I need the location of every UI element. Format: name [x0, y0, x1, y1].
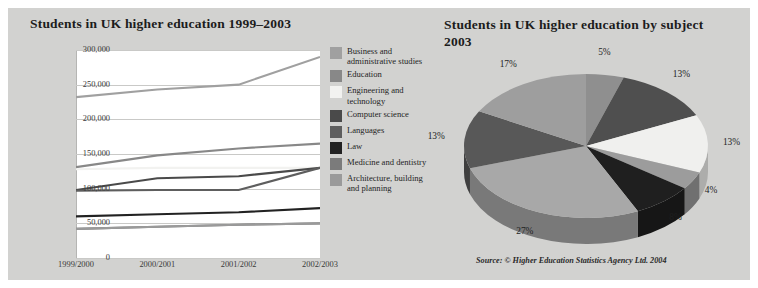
- pie-slice-percentage: 17%: [500, 59, 517, 69]
- line-series: [76, 223, 320, 229]
- line-series: [76, 208, 320, 216]
- gridline: [76, 258, 320, 259]
- pie-slice-percentage: 27%: [516, 226, 533, 236]
- y-axis-tick-label: 300,000: [50, 45, 110, 54]
- x-axis-tick-label: 2002/2003: [283, 260, 357, 269]
- line-series: [76, 168, 320, 169]
- legend-item: Architecture, building and planning: [330, 173, 428, 193]
- x-axis-tick-label: 2000/2001: [120, 260, 194, 269]
- legend-color-swatch: [330, 110, 342, 122]
- legend-color-swatch: [330, 174, 342, 186]
- legend-color-swatch: [330, 142, 342, 154]
- legend-item-label: Languages: [347, 125, 384, 135]
- legend-item-label: Computer science: [347, 109, 409, 119]
- figure-panel: Students in UK higher education 1999–200…: [8, 8, 750, 280]
- pie-slice-percentage: 8%: [669, 212, 682, 222]
- source-attribution: Source: © Higher Education Statistics Ag…: [476, 256, 667, 265]
- legend-color-swatch: [330, 158, 342, 170]
- legend-item: Education: [330, 69, 428, 82]
- legend-item-label: Medicine and dentistry: [347, 157, 426, 167]
- x-axis-tick-label: 1999/2000: [39, 260, 113, 269]
- y-axis-tick-label: 200,000: [50, 114, 110, 123]
- line-chart-panel: Students in UK higher education 1999–200…: [8, 8, 428, 280]
- pie-chart-title: Students in UK higher education by subje…: [444, 16, 704, 50]
- legend-item-label: Law: [347, 141, 362, 151]
- line-chart-title: Students in UK higher education 1999–200…: [30, 16, 291, 32]
- legend-item: Medicine and dentistry: [330, 157, 428, 170]
- line-series: [76, 57, 320, 97]
- pie-slice-percentage: 5%: [598, 47, 611, 57]
- pie-chart-panel: Students in UK higher education by subje…: [428, 8, 750, 280]
- line-series-group: [76, 50, 320, 258]
- legend-color-swatch: [330, 47, 342, 59]
- y-axis-tick-label: 50,000: [50, 218, 110, 227]
- pie-slice-percentage: 13%: [723, 137, 740, 147]
- legend-item-label: Engineering and technology: [347, 85, 428, 105]
- pie-chart-graphic: [436, 54, 736, 250]
- pie-slice-percentage: 13%: [428, 131, 445, 141]
- legend-item-label: Education: [347, 69, 382, 79]
- x-axis-tick-label: 2001/2002: [202, 260, 276, 269]
- legend-item: Languages: [330, 125, 428, 138]
- legend-item: Law: [330, 141, 428, 154]
- legend-item: Engineering and technology: [330, 85, 428, 105]
- y-axis-tick-label: 250,000: [50, 80, 110, 89]
- pie-slice-percentage: 4%: [705, 185, 718, 195]
- legend-item-label: Architecture, building and planning: [347, 173, 428, 193]
- line-series: [76, 144, 320, 168]
- legend-color-swatch: [330, 126, 342, 138]
- legend-item: Computer science: [330, 109, 428, 122]
- legend-color-swatch: [330, 70, 342, 82]
- y-axis-tick-label: 150,000: [50, 149, 110, 158]
- y-axis-tick-label: 100,000: [50, 184, 110, 193]
- legend-color-swatch: [330, 86, 342, 98]
- pie-slice-percentage: 13%: [673, 69, 690, 79]
- line-series: [76, 168, 320, 190]
- legend-item-label: Business and administrative studies: [347, 46, 428, 66]
- line-chart-legend: Business and administrative studiesEduca…: [330, 46, 428, 196]
- legend-item: Business and administrative studies: [330, 46, 428, 66]
